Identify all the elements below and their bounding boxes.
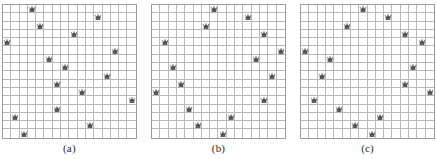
board-cell[interactable]: [160, 55, 168, 63]
board-cell[interactable]: [301, 71, 309, 79]
board-cell[interactable]: [210, 5, 218, 13]
board-cell[interactable]: [44, 113, 52, 121]
board-cell[interactable]: [194, 96, 202, 104]
board-cell[interactable]: [36, 46, 44, 54]
board-cell[interactable]: [210, 38, 218, 46]
board-cell[interactable]: [359, 55, 367, 63]
board-cell[interactable]: [326, 121, 334, 129]
board-cell[interactable]: [36, 71, 44, 79]
board-cell[interactable]: [94, 46, 102, 54]
board-cell[interactable]: [426, 88, 434, 96]
board-cell[interactable]: [78, 13, 86, 21]
board-cell[interactable]: [160, 63, 168, 71]
board-cell[interactable]: [426, 113, 434, 121]
board-cell[interactable]: [301, 46, 309, 54]
board-cell[interactable]: [268, 113, 276, 121]
board-cell[interactable]: [343, 55, 351, 63]
board-cell[interactable]: [392, 105, 400, 113]
board-cell[interactable]: [268, 13, 276, 21]
board-cell[interactable]: [160, 96, 168, 104]
board-cell[interactable]: [53, 80, 61, 88]
board-cell[interactable]: [3, 96, 11, 104]
board-cell[interactable]: [426, 22, 434, 30]
board-cell[interactable]: [235, 96, 243, 104]
board-cell[interactable]: [318, 129, 326, 137]
board-cell[interactable]: [69, 22, 77, 30]
board-cell[interactable]: [309, 46, 317, 54]
board-cell[interactable]: [351, 22, 359, 30]
board-cell[interactable]: [177, 105, 185, 113]
board-cell[interactable]: [326, 113, 334, 121]
board-cell[interactable]: [177, 129, 185, 137]
board-cell[interactable]: [277, 5, 285, 13]
board-cell[interactable]: [243, 96, 251, 104]
board-cell[interactable]: [277, 22, 285, 30]
board-cell[interactable]: [368, 30, 376, 38]
board-cell[interactable]: [277, 38, 285, 46]
board-cell[interactable]: [78, 121, 86, 129]
board-cell[interactable]: [185, 71, 193, 79]
board-cell[interactable]: [127, 80, 135, 88]
board-cell[interactable]: [169, 63, 177, 71]
board-cell[interactable]: [268, 38, 276, 46]
board-cell[interactable]: [334, 105, 342, 113]
board-cell[interactable]: [11, 46, 19, 54]
board-cell[interactable]: [152, 63, 160, 71]
board-cell[interactable]: [127, 22, 135, 30]
board-cell[interactable]: [103, 105, 111, 113]
board-cell[interactable]: [277, 63, 285, 71]
board-cell[interactable]: [28, 38, 36, 46]
board-cell[interactable]: [392, 129, 400, 137]
board-cell[interactable]: [351, 63, 359, 71]
board-cell[interactable]: [334, 5, 342, 13]
board-cell[interactable]: [260, 96, 268, 104]
board-cell[interactable]: [36, 22, 44, 30]
board-cell[interactable]: [69, 46, 77, 54]
board-cell[interactable]: [61, 38, 69, 46]
board-cell[interactable]: [334, 71, 342, 79]
board-cell[interactable]: [252, 22, 260, 30]
board-cell[interactable]: [202, 80, 210, 88]
board-cell[interactable]: [326, 13, 334, 21]
board-cell[interactable]: [61, 5, 69, 13]
board-cell[interactable]: [20, 113, 28, 121]
board-cell[interactable]: [127, 38, 135, 46]
board-cell[interactable]: [86, 129, 94, 137]
board-cell[interactable]: [260, 88, 268, 96]
board-cell[interactable]: [235, 38, 243, 46]
board-cell[interactable]: [202, 88, 210, 96]
board-cell[interactable]: [301, 5, 309, 13]
board-cell[interactable]: [401, 113, 409, 121]
board-cell[interactable]: [343, 96, 351, 104]
board-cell[interactable]: [44, 88, 52, 96]
board-cell[interactable]: [384, 13, 392, 21]
board-cell[interactable]: [401, 55, 409, 63]
board-cell[interactable]: [392, 22, 400, 30]
board-cell[interactable]: [28, 105, 36, 113]
board-cell[interactable]: [376, 5, 384, 13]
board-cell[interactable]: [169, 71, 177, 79]
board-cell[interactable]: [260, 46, 268, 54]
board-cell[interactable]: [78, 105, 86, 113]
board-cell[interactable]: [28, 5, 36, 13]
board-cell[interactable]: [202, 5, 210, 13]
board-cell[interactable]: [160, 121, 168, 129]
board-cell[interactable]: [94, 22, 102, 30]
board-cell[interactable]: [119, 129, 127, 137]
board-cell[interactable]: [103, 71, 111, 79]
board-cell[interactable]: [401, 46, 409, 54]
board-cell[interactable]: [252, 46, 260, 54]
board-cell[interactable]: [318, 113, 326, 121]
board-cell[interactable]: [252, 38, 260, 46]
board-cell[interactable]: [384, 121, 392, 129]
board-cell[interactable]: [277, 46, 285, 54]
board-cell[interactable]: [28, 96, 36, 104]
board-cell[interactable]: [177, 5, 185, 13]
board-cell[interactable]: [334, 121, 342, 129]
board-cell[interactable]: [61, 129, 69, 137]
board-cell[interactable]: [20, 13, 28, 21]
board-cell[interactable]: [36, 63, 44, 71]
board-cell[interactable]: [111, 80, 119, 88]
board-cell[interactable]: [252, 88, 260, 96]
board-cell[interactable]: [334, 96, 342, 104]
